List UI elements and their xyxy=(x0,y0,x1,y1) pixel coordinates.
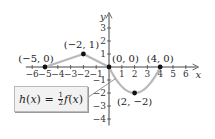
x-tick-label: −4 xyxy=(51,69,65,79)
x-tick-label: 1 xyxy=(119,69,125,79)
data-point xyxy=(158,65,163,70)
y-axis-label: y xyxy=(99,11,106,22)
x-tick-label: 6 xyxy=(183,69,189,79)
data-point xyxy=(107,65,112,70)
data-point xyxy=(81,52,86,57)
x-tick-label: 2 xyxy=(132,69,138,79)
function-label: h(x) = 1 2 f(x) xyxy=(19,92,83,107)
point-label: (−5, 0) xyxy=(18,53,53,64)
y-tick-label: −4 xyxy=(93,114,107,124)
fraction: 1 2 xyxy=(58,92,63,107)
point-label: (0, 0) xyxy=(112,53,139,64)
x-tick-label: −3 xyxy=(64,69,78,79)
x-tick-label: −5 xyxy=(38,69,52,79)
x-tick-label: −2 xyxy=(77,69,90,79)
chart: xy−6−5−4−3−2−1123456−4−3−2−1123 (−5, 0)(… xyxy=(0,0,215,139)
y-tick-label: 1 xyxy=(100,49,106,59)
point-label: (2, −2) xyxy=(117,96,152,107)
data-point xyxy=(43,65,48,70)
point-label: (4, 0) xyxy=(147,53,174,64)
y-tick-label: 3 xyxy=(100,23,106,33)
data-point xyxy=(132,91,137,96)
y-tick-label: −1 xyxy=(93,75,106,85)
function-label-box: h(x) = 1 2 f(x) xyxy=(14,86,88,112)
y-tick-label: −3 xyxy=(93,101,107,111)
x-tick-label: −6 xyxy=(26,69,40,79)
y-tick-label: 2 xyxy=(100,36,106,46)
point-label: (−2, 1) xyxy=(64,39,99,50)
x-tick-label: 5 xyxy=(170,69,176,79)
x-tick-label: 3 xyxy=(145,69,151,79)
x-axis-label: x xyxy=(196,69,202,80)
